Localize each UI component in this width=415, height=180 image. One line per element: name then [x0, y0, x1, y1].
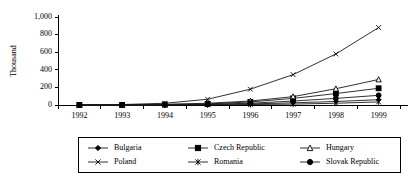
legend-item-bulgaria[interactable]: Bulgaria — [88, 143, 142, 152]
data-point-circle — [120, 103, 125, 108]
legend-item-czech-republic[interactable]: Czech Republic — [188, 143, 265, 152]
x-axis-tick-label: 1997 — [285, 111, 301, 120]
x-axis: 19921993199419951996199719981999 — [58, 105, 408, 120]
legend-item-label: Slovak Republic — [326, 157, 380, 166]
x-axis-tick-label: 1992 — [71, 111, 87, 120]
legend-item-poland[interactable]: Poland — [88, 157, 136, 166]
y-axis: 02004006008001,000Thousand — [9, 12, 58, 109]
legend-item-label: Poland — [114, 157, 136, 166]
legend-item-label: Czech Republic — [214, 143, 265, 152]
legend-item-hungary[interactable]: Hungary — [300, 143, 354, 152]
data-point-square — [376, 86, 381, 91]
chart-canvas: 02004006008001,000Thousand 1992199319941… — [0, 0, 415, 180]
x-axis-tick-label: 1995 — [200, 111, 216, 120]
legend-marker-square — [195, 145, 200, 150]
chart-legend: BulgariaCzech RepublicHungaryPolandRoman… — [78, 137, 400, 172]
legend-item-label: Romania — [214, 157, 243, 166]
x-axis-tick-label: 1999 — [371, 111, 387, 120]
x-axis-tick-label: 1998 — [328, 111, 344, 120]
data-point-circle — [205, 102, 210, 107]
data-point-circle — [248, 101, 253, 106]
y-axis-tick-label: 200 — [40, 82, 52, 91]
y-axis-tick-label: 400 — [40, 65, 52, 74]
legend-marker-circle — [307, 159, 312, 164]
legend-item-label: Hungary — [326, 143, 354, 152]
y-axis-tick-label: 0 — [48, 100, 52, 109]
x-axis-tick-label: 1993 — [114, 111, 130, 120]
data-point-circle — [291, 99, 296, 104]
data-point-triangle — [376, 77, 381, 82]
x-axis-tick-label: 1994 — [157, 111, 173, 120]
data-point-circle — [333, 96, 338, 101]
data-point-circle — [376, 93, 381, 98]
legend-item-romania[interactable]: Romania — [188, 157, 243, 166]
y-axis-tick-label: 600 — [40, 47, 52, 56]
y-axis-tick-label: 800 — [40, 29, 52, 38]
y-axis-title: Thousand — [9, 45, 18, 77]
series-layer — [77, 25, 381, 108]
line-chart: 02004006008001,000Thousand 1992199319941… — [0, 0, 415, 180]
legend-item-slovak-republic[interactable]: Slovak Republic — [300, 157, 380, 166]
x-axis-tick-label: 1996 — [242, 111, 258, 120]
y-axis-tick-label: 1,000 — [34, 12, 52, 21]
legend-item-label: Bulgaria — [114, 143, 142, 152]
data-point-circle — [162, 102, 167, 107]
data-point-square — [333, 91, 338, 96]
legend-marker-diamond — [95, 145, 100, 150]
data-point-circle — [77, 103, 82, 108]
